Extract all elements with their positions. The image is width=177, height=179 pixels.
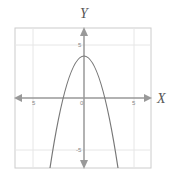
tick-x-5: 5 (132, 100, 136, 106)
tick-x-neg5: 5 (32, 100, 36, 106)
tick-y-neg5: -5 (76, 147, 82, 153)
x-axis-label: X (156, 91, 166, 106)
y-axis-label: Y (80, 6, 90, 21)
parabola-graph: 5 0 5 5 -5 Y X (0, 0, 177, 179)
